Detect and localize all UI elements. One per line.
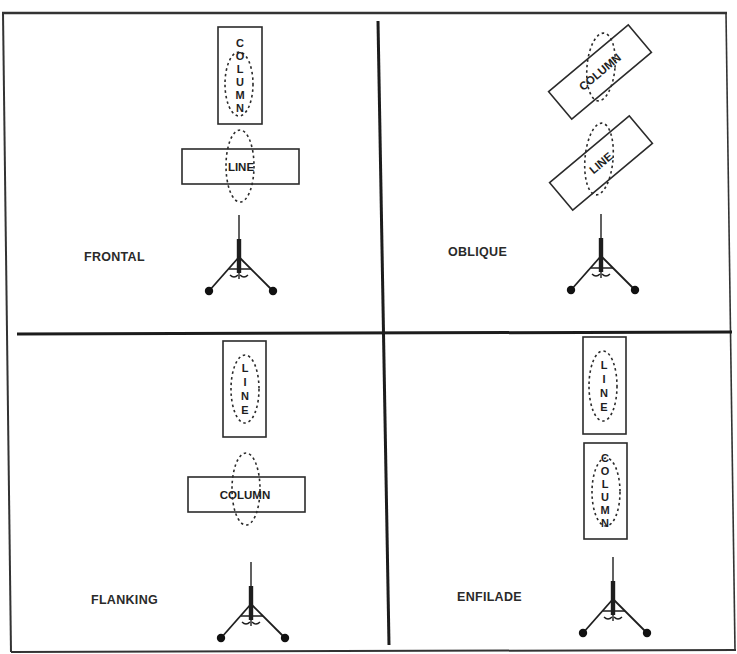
horizontal-divider xyxy=(17,332,732,334)
machine-gun-icon xyxy=(579,557,651,637)
column-letter: M xyxy=(235,89,244,101)
column-letter: N xyxy=(236,102,244,114)
quadrant-flanking: L I N E COLUMN FLANKING xyxy=(91,341,305,642)
quadrant-label-enfilade: ENFILADE xyxy=(457,590,522,604)
line-label: LINE xyxy=(228,161,255,173)
column-letter: C xyxy=(601,452,609,464)
column-formation: COLUMN xyxy=(549,25,652,119)
column-letter: U xyxy=(236,76,244,88)
line-letter: N xyxy=(600,387,608,399)
column-letter: C xyxy=(236,37,244,49)
column-letter: N xyxy=(601,517,609,529)
column-letter: L xyxy=(602,478,609,490)
quadrant-enfilade: L I N E C O L U M N ENFILADE xyxy=(457,337,651,637)
column-letter: U xyxy=(601,491,609,503)
column-formation: C O L U M N xyxy=(584,443,627,539)
machine-gun-icon xyxy=(217,562,289,642)
fire-classes-diagram: C O L U M N LINE FRONTAL COLUMN LINE xyxy=(0,0,737,654)
machine-gun-icon xyxy=(567,214,639,294)
quadrant-label-frontal: FRONTAL xyxy=(84,250,145,264)
column-letter: O xyxy=(236,50,245,62)
line-letter: L xyxy=(601,359,608,371)
line-formation: LINE xyxy=(550,116,653,210)
line-letter: I xyxy=(243,376,246,388)
column-formation: COLUMN xyxy=(188,453,305,525)
line-letter: E xyxy=(600,401,607,413)
quadrant-label-oblique: OBLIQUE xyxy=(448,245,507,259)
line-formation: LINE xyxy=(182,130,299,202)
column-letter: L xyxy=(237,63,244,75)
column-letter: M xyxy=(600,504,609,516)
line-letter: L xyxy=(242,362,249,374)
line-letter: N xyxy=(241,390,249,402)
quadrant-oblique: COLUMN LINE OBLIQUE xyxy=(448,25,652,294)
column-letter: O xyxy=(601,465,610,477)
machine-gun-icon xyxy=(205,215,277,295)
line-formation: L I N E xyxy=(223,341,266,437)
column-formation: C O L U M N xyxy=(218,27,262,124)
line-letter: E xyxy=(241,404,248,416)
line-formation: L I N E xyxy=(583,337,626,434)
quadrant-label-flanking: FLANKING xyxy=(91,593,158,607)
line-letter: I xyxy=(602,373,605,385)
column-label: COLUMN xyxy=(220,489,270,501)
quadrant-frontal: C O L U M N LINE FRONTAL xyxy=(84,27,299,295)
